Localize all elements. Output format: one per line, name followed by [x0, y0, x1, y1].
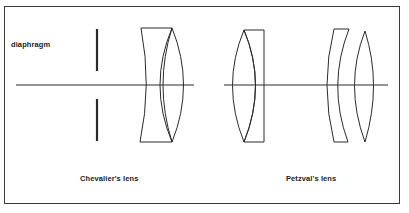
diaphragm-label: diaphragm	[11, 40, 50, 49]
lens-diagram	[0, 0, 409, 213]
petzval-rear-convex-lens	[355, 31, 374, 142]
petzval-caption: Petzval's lens	[286, 174, 336, 183]
chevalier-caption: Chevalier's lens	[80, 174, 138, 183]
petzval-front-convex-lens	[233, 30, 256, 142]
petzval-front-flint-lens	[244, 30, 264, 142]
